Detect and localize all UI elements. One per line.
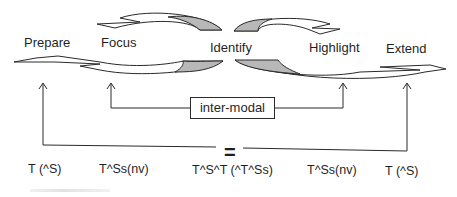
stage-label-identify: Identify [210, 40, 252, 55]
lower-right-curved-arrow-icon [235, 60, 446, 78]
stage-code-highlight: T^Ss(nv) [307, 163, 357, 177]
stage-label-extend: Extend [386, 41, 426, 56]
upper-left-curved-arrow-icon [97, 13, 222, 30]
lower-left-curved-arrow-icon [14, 56, 223, 74]
cropped-caption-residue [30, 189, 110, 192]
stage-code-focus: T^Ss(nv) [99, 162, 149, 176]
stage-code-extend: T (^S) [385, 164, 418, 178]
stage-code-prepare: T (^S) [28, 162, 61, 176]
stage-code-identify: T^S^T (^T^Ss) [192, 163, 273, 177]
diagram-canvas: Prepare Focus Identify Highlight Extend … [0, 0, 457, 197]
stage-label-focus: Focus [101, 35, 136, 50]
upper-right-curved-arrow-icon [234, 18, 340, 34]
stage-label-prepare: Prepare [24, 35, 70, 50]
inter-modal-box: inter-modal [190, 97, 275, 119]
equivalence-sign: = [224, 141, 236, 164]
stage-label-highlight: Highlight [309, 40, 360, 55]
